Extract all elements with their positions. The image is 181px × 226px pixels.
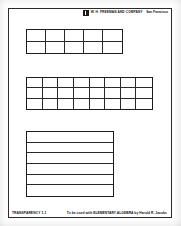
grid-cell: [136, 78, 152, 88]
grid-cell: [46, 30, 65, 42]
grid-cell: [84, 30, 103, 42]
grid-cell: [74, 78, 90, 88]
textbook-credit: To be used with ELEMENTARY ALGEBRA by Ha…: [67, 212, 167, 215]
grid-cell: [121, 78, 137, 88]
transparency-id: TRANSPARENCY 1-1: [12, 212, 46, 215]
figure-rectangle-grid-5x2: [26, 29, 123, 54]
printed-frame: W. H. FREEMAN AND COMPANY San Francisco …: [8, 8, 172, 218]
grid-cell: [58, 99, 74, 109]
grid-cell: [65, 42, 84, 54]
grid-cell: [27, 153, 113, 164]
grid-cell: [90, 99, 106, 109]
grid-cell: [103, 42, 122, 54]
figure-square-strips-1x6: [26, 131, 114, 197]
grid-cell: [27, 30, 46, 42]
grid-cell: [27, 164, 113, 175]
grid-cell: [136, 88, 152, 98]
grid-cell: [105, 78, 121, 88]
grid-cell: [136, 99, 152, 109]
publisher-city: San Francisco: [146, 11, 168, 14]
grid-cell: [27, 78, 43, 88]
grid-cell: [27, 42, 46, 54]
grid-cell: [121, 88, 137, 98]
grid-cell: [27, 99, 43, 109]
scanned-page: W. H. FREEMAN AND COMPANY San Francisco …: [0, 0, 181, 226]
grid-cell: [58, 78, 74, 88]
publisher-header: W. H. FREEMAN AND COMPANY San Francisco: [83, 10, 168, 16]
grid-cell: [103, 30, 122, 42]
grid-cell: [65, 30, 84, 42]
grid-cell: [58, 88, 74, 98]
grid-cell: [27, 175, 113, 186]
grid-cell: [46, 42, 65, 54]
grid-cell: [43, 99, 59, 109]
grid-cell: [105, 88, 121, 98]
publisher-name: W. H. FREEMAN AND COMPANY: [91, 11, 143, 14]
wh-freeman-logo-icon: [83, 10, 89, 16]
grid-cell: [90, 88, 106, 98]
grid-cell: [43, 88, 59, 98]
grid-cell: [27, 143, 113, 154]
grid-cell: [84, 42, 103, 54]
grid-cell: [90, 78, 106, 88]
grid-cell: [27, 185, 113, 196]
figure-rectangle-grid-8x3: [26, 77, 153, 110]
grid-cell: [43, 78, 59, 88]
grid-cell: [27, 132, 113, 143]
grid-cell: [74, 88, 90, 98]
grid-cell: [74, 99, 90, 109]
grid-cell: [121, 99, 137, 109]
grid-cell: [105, 99, 121, 109]
grid-cell: [27, 88, 43, 98]
